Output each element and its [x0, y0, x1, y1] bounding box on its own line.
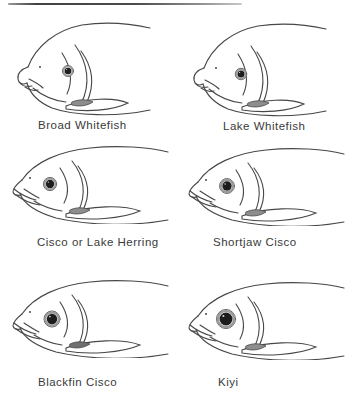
field-guide-page: Broad Whitefish Lake Whitefish Cisco or …: [0, 0, 352, 416]
page-top-rule: [8, 3, 242, 5]
species-label-lake-whitefish: Lake Whitefish: [223, 120, 305, 132]
lake-whitefish-illustration: [178, 21, 352, 117]
blackfin-cisco-illustration: [0, 278, 176, 358]
species-label-shortjaw-cisco: Shortjaw Cisco: [213, 236, 297, 248]
cisco-or-lake-herring-illustration: [0, 144, 176, 224]
species-label-blackfin-cisco: Blackfin Cisco: [38, 376, 117, 388]
species-label-cisco-or-lake-herring: Cisco or Lake Herring: [37, 236, 159, 248]
species-label-broad-whitefish: Broad Whitefish: [38, 119, 127, 131]
shortjaw-cisco-illustration: [176, 146, 352, 226]
kiyi-illustration: [176, 280, 352, 360]
broad-whitefish-illustration: [2, 20, 176, 116]
species-label-kiyi: Kiyi: [218, 376, 239, 388]
